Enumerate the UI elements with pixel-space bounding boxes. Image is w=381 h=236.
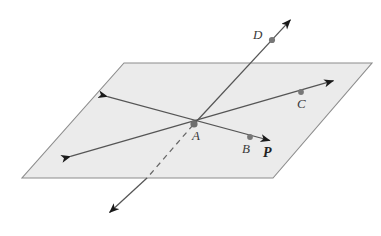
point-label-B: B <box>242 142 250 155</box>
geometry-figure: A B C D P <box>0 0 381 236</box>
geometry-canvas <box>0 0 381 236</box>
point-A-dot <box>190 120 197 127</box>
line-through-A-and-D-lower <box>110 178 148 213</box>
point-C-dot <box>298 89 304 95</box>
point-label-A: A <box>192 129 200 142</box>
point-B-dot <box>247 134 253 140</box>
point-label-C: C <box>297 97 306 110</box>
plane-label-P: P <box>263 146 272 160</box>
point-D-dot <box>269 37 275 43</box>
point-label-D: D <box>253 28 262 41</box>
